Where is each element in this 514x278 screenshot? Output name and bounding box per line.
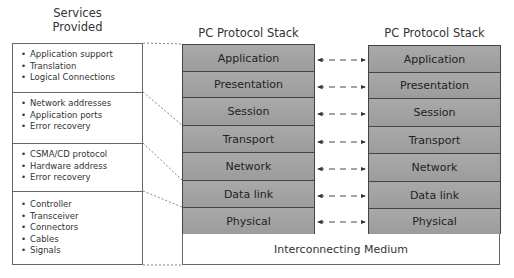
connector-lines [0, 0, 514, 278]
peer-arrows [318, 60, 365, 222]
dotted-mapping-lines [143, 43, 182, 265]
